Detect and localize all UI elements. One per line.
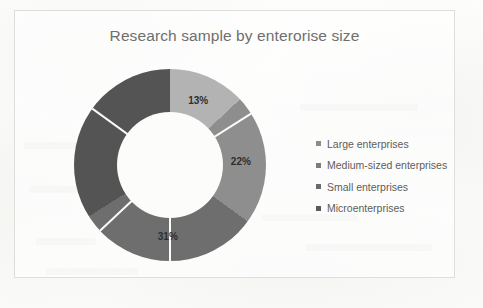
legend-item-medium-sized-enterprises[interactable]: Medium-sized enterprises xyxy=(316,155,466,177)
chart-title: Research sample by enterorise size xyxy=(15,27,454,45)
legend-label: Small enterprises xyxy=(327,181,408,193)
legend-swatch-icon xyxy=(316,184,321,189)
slice-separator xyxy=(169,165,171,261)
legend-label: Microenterprises xyxy=(327,202,405,214)
legend-item-large-enterprises[interactable]: Large enterprises xyxy=(316,133,466,155)
legend-label: Medium-sized enterprises xyxy=(327,159,447,171)
legend-swatch-icon xyxy=(316,163,321,168)
slice-value-label: 13% xyxy=(188,94,208,105)
legend-label: Large enterprises xyxy=(327,138,409,150)
doughnut-chart: 13%22%31% xyxy=(74,69,266,261)
legend-swatch-icon xyxy=(316,141,321,146)
legend-swatch-icon xyxy=(316,206,321,211)
slice-value-label: 22% xyxy=(231,155,251,166)
slice-value-label: 31% xyxy=(158,230,178,241)
legend-item-small-enterprises[interactable]: Small enterprises xyxy=(316,176,466,198)
chart-container: Research sample by enterorise size 13%22… xyxy=(14,10,455,278)
legend-item-microenterprises[interactable]: Microenterprises xyxy=(316,198,466,220)
chart-legend: Large enterprises Medium-sized enterpris… xyxy=(316,133,466,219)
